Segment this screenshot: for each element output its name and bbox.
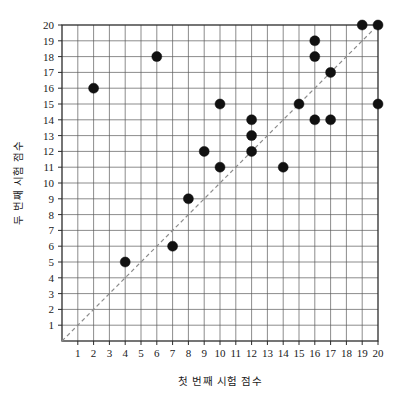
x-axis-title-label: 첫 번째 시험 점수 — [178, 375, 262, 387]
x-tick-label: 9 — [201, 347, 207, 359]
x-tick-label: 6 — [154, 347, 160, 359]
data-point-marker: (16, 18) — [310, 52, 320, 62]
y-tick-label: 8 — [49, 209, 55, 221]
data-point-marker: (15, 15) — [294, 99, 304, 109]
data-point-marker: (17, 14) — [326, 115, 336, 125]
y-tick-label: 19 — [43, 35, 55, 47]
plot-canvas: (2, 16)(4, 5)(6, 18)(7, 6)(8, 9)(9, 12)(… — [0, 0, 398, 410]
x-tick-label: 19 — [357, 347, 369, 359]
y-tick-label: 4 — [49, 272, 55, 284]
data-point-marker: (7, 6) — [168, 241, 178, 251]
y-tick-label: 15 — [43, 98, 55, 110]
data-point-marker: (9, 12) — [199, 146, 209, 156]
x-tick-label: 10 — [215, 347, 227, 359]
y-tick-label: 3 — [49, 288, 55, 300]
x-tick-label: 15 — [294, 347, 306, 359]
y-tick-label: 16 — [43, 82, 55, 94]
data-point-marker: (8, 9) — [183, 194, 193, 204]
x-tick-label: 2 — [91, 347, 97, 359]
data-point-marker: (6, 18) — [152, 52, 162, 62]
x-tick-label: 3 — [107, 347, 113, 359]
y-axis-title-label: 두 번째 시험 점수 — [12, 141, 24, 225]
y-tick-label: 9 — [49, 193, 55, 205]
data-point-marker: (20, 20) — [373, 20, 383, 30]
data-point-marker: (4, 5) — [120, 257, 130, 267]
y-tick-label: 11 — [43, 161, 54, 173]
x-tick-label: 4 — [122, 347, 128, 359]
x-tick-label: 8 — [186, 347, 192, 359]
x-axis-title: 첫 번째 시험 점수 — [178, 375, 262, 387]
y-tick-label: 20 — [43, 19, 55, 31]
data-point-marker: (20, 15) — [373, 99, 383, 109]
x-tick-label: 16 — [309, 347, 321, 359]
data-point-marker: (14, 11) — [278, 162, 288, 172]
x-tick-label: 18 — [341, 347, 353, 359]
x-tick-label: 13 — [262, 347, 274, 359]
scatter-plot-figure: (2, 16)(4, 5)(6, 18)(7, 6)(8, 9)(9, 12)(… — [0, 0, 398, 410]
data-point-marker: (2, 16) — [89, 83, 99, 93]
y-tick-label: 6 — [49, 240, 55, 252]
x-tick-label: 1 — [75, 347, 81, 359]
y-tick-label: 10 — [43, 177, 55, 189]
y-tick-label: 2 — [49, 303, 55, 315]
data-point-marker: (12, 14) — [247, 115, 257, 125]
x-tick-label: 7 — [170, 347, 176, 359]
x-tick-label: 20 — [373, 347, 385, 359]
x-tick-label: 12 — [246, 347, 257, 359]
y-tick-label: 5 — [49, 256, 55, 268]
data-point-marker: (16, 19) — [310, 36, 320, 46]
y-axis-title: 두 번째 시험 점수 — [12, 141, 24, 225]
data-point-marker: (10, 11) — [215, 162, 225, 172]
x-tick-label: 5 — [138, 347, 144, 359]
data-point-marker: (12, 12) — [247, 146, 257, 156]
x-axis-tick-labels: 1234567891011121314151617181920 — [75, 341, 384, 359]
data-point-marker: (16, 14) — [310, 115, 320, 125]
y-tick-label: 17 — [43, 66, 55, 78]
y-tick-label: 14 — [43, 114, 55, 126]
y-tick-label: 13 — [43, 130, 55, 142]
data-point-marker: (10, 15) — [215, 99, 225, 109]
data-point-marker: (19, 20) — [357, 20, 367, 30]
x-tick-label: 11 — [231, 347, 242, 359]
y-tick-label: 7 — [49, 224, 55, 236]
y-tick-label: 18 — [43, 51, 55, 63]
y-tick-label: 1 — [49, 319, 55, 331]
x-tick-label: 14 — [278, 347, 290, 359]
y-axis-tick-labels: 1234567891011121314151617181920 — [43, 19, 62, 331]
x-tick-label: 17 — [325, 347, 337, 359]
data-point-marker: (17, 17) — [326, 67, 336, 77]
y-tick-label: 12 — [43, 145, 54, 157]
data-point-marker: (12, 13) — [247, 131, 257, 141]
